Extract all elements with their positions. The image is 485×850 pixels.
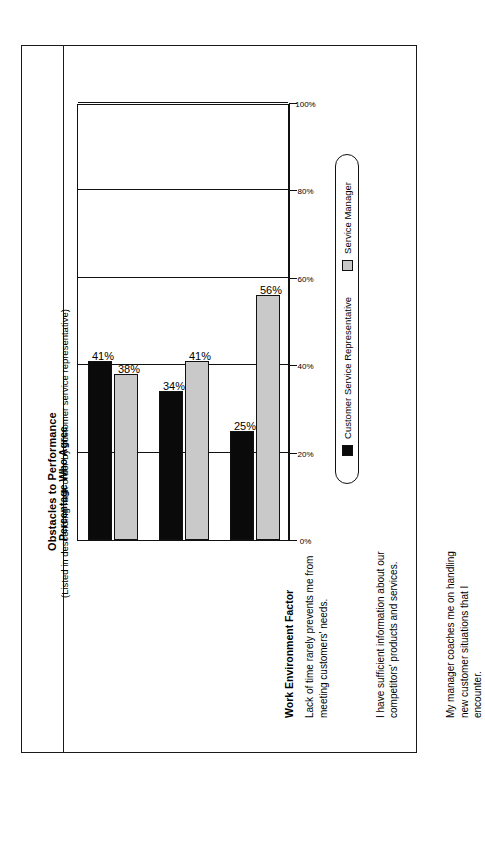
axis-tick-label-0: 0% xyxy=(292,537,320,546)
gray-square-swatch-icon xyxy=(342,260,353,271)
chart-axis-title: Percentage Who Agree xyxy=(57,104,69,541)
category-column-header: Work Environment Factor xyxy=(283,590,295,718)
axis-tick-label-40: 40% xyxy=(292,362,320,371)
axis-line xyxy=(289,104,290,541)
axis-tick-label-60: 60% xyxy=(292,274,320,283)
gridline-100 xyxy=(78,102,288,103)
category-label-1: I have sufficient information about our … xyxy=(374,543,401,718)
bar-0-service-manager xyxy=(114,374,138,540)
bar-value-label-0-csr: 41% xyxy=(92,350,114,362)
legend-item-csr: Customer Service Representative xyxy=(342,297,353,456)
bar-value-label-1-csr: 34% xyxy=(163,380,185,392)
legend-item-service-manager: Service Manager xyxy=(342,182,353,271)
bar-value-label-1-service-manager: 41% xyxy=(189,350,211,362)
axis-tick-label-100: 100% xyxy=(292,100,320,109)
gridline-60 xyxy=(78,277,288,278)
bar-value-label-2-csr: 25% xyxy=(234,420,256,432)
category-label-2: My manager coaches me on handling new cu… xyxy=(444,543,485,718)
bar-2-csr xyxy=(230,431,254,540)
black-square-swatch-icon xyxy=(342,445,353,456)
document-frame: Obstacles to Performance (Listed in desc… xyxy=(21,45,417,753)
value-axis: 0%20%40%60%80%100% xyxy=(289,104,315,541)
rotated-chart-canvas: Percentage Who Agree Work Environment Fa… xyxy=(63,46,416,754)
bar-value-label-2-service-manager: 56% xyxy=(260,284,282,296)
bar-value-label-0-service-manager: 38% xyxy=(118,363,140,375)
bar-1-csr xyxy=(159,391,183,540)
plot-area: 41%38%34%41%25%56% xyxy=(77,104,289,541)
bar-2-service-manager xyxy=(256,295,280,540)
chart-legend: Customer Service Representative Service … xyxy=(335,154,359,484)
legend-label-service-manager: Service Manager xyxy=(342,182,353,254)
bar-0-csr xyxy=(88,361,112,540)
category-label-0: Lack of time rarely prevents me from mee… xyxy=(303,543,330,718)
gridline-80 xyxy=(78,189,288,190)
chart-region: Percentage Who Agree Work Environment Fa… xyxy=(63,46,416,754)
axis-tick-label-20: 20% xyxy=(292,449,320,458)
legend-label-csr: Customer Service Representative xyxy=(342,297,353,439)
bar-1-service-manager xyxy=(185,361,209,540)
axis-tick-label-80: 80% xyxy=(292,187,320,196)
